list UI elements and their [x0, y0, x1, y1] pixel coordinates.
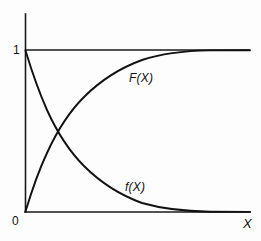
pdf-curve-label: f(X): [125, 181, 145, 193]
plot-canvas: [0, 0, 261, 241]
exponential-distribution-figure: 1 0 X F(X) f(X): [0, 0, 261, 241]
x-axis-label: X: [243, 217, 252, 230]
y-axis-tick-label-one: 1: [13, 44, 20, 56]
origin-tick-label-zero: 0: [12, 215, 19, 227]
cdf-curve-label: F(X): [129, 72, 153, 84]
